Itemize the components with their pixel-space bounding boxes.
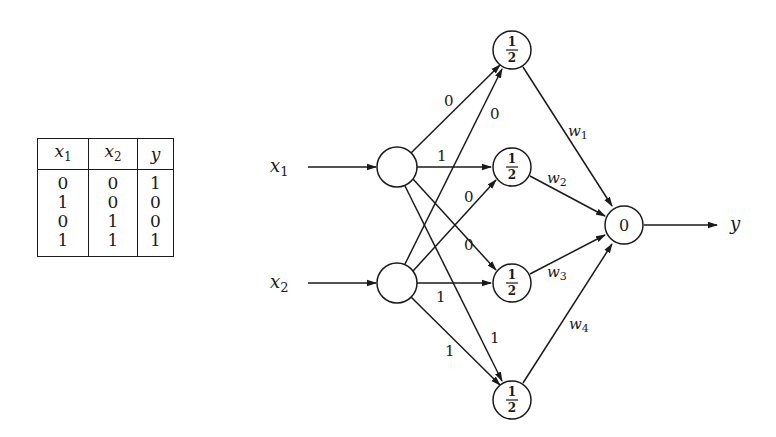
svg-text:1: 1 <box>508 152 516 166</box>
output-threshold: 0 <box>619 216 629 235</box>
svg-text:2: 2 <box>508 168 516 182</box>
weight-x1-h1: 0 <box>444 92 454 110</box>
svg-text:1: 1 <box>508 385 516 399</box>
input-label-x2: x2 <box>270 271 288 295</box>
edge-x2-h4 <box>411 297 500 385</box>
svg-text:1: 1 <box>508 268 516 282</box>
svg-text:2: 2 <box>508 284 516 298</box>
network-diagram: 1 2 1 2 1 2 1 2 0 x1 x2 y 0 0 1 0 0 1 1 … <box>0 0 776 437</box>
weight-w2: w2 <box>547 169 567 189</box>
edge-h2-out <box>530 176 605 216</box>
weight-x2-h4: 1 <box>445 342 455 360</box>
input-label-x1: x1 <box>270 155 288 179</box>
weight-w3: w3 <box>547 263 567 283</box>
weight-x2-h1: 0 <box>490 105 500 123</box>
weight-x1-h3: 0 <box>464 236 474 254</box>
svg-text:1: 1 <box>508 35 516 49</box>
svg-text:2: 2 <box>508 51 516 65</box>
weight-x2-h2: 0 <box>464 188 474 206</box>
edge-h4-out <box>523 244 612 383</box>
weight-x2-h3: 1 <box>436 288 446 306</box>
input-node-1 <box>377 147 417 187</box>
weight-x1-h2: 1 <box>437 147 447 165</box>
weight-w1: w1 <box>568 122 588 142</box>
svg-text:2: 2 <box>508 401 516 415</box>
weight-x1-h4: 1 <box>490 329 500 347</box>
output-label-y: y <box>729 213 741 234</box>
edge-h3-out <box>530 235 605 274</box>
input-node-2 <box>377 263 417 303</box>
weight-w4: w4 <box>569 315 589 335</box>
edge-x1-h1 <box>411 65 500 153</box>
